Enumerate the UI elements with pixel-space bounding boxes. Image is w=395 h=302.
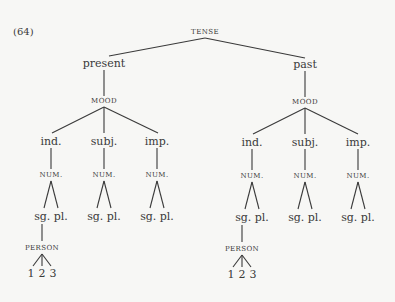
node-sg-pl: sg. pl. [288,212,322,223]
tree-edges [0,0,395,302]
node-subj: subj. [292,137,319,148]
node-sg-pl: sg. pl. [341,212,375,223]
node-mood: MOOD [292,99,318,106]
node-tense: TENSE [191,29,219,36]
node-past: past [293,59,317,70]
node-person-3: 3 [50,268,57,279]
node-person-2: 2 [39,268,46,279]
example-number: (64) [13,26,34,37]
node-mood: MOOD [91,98,117,105]
node-num: NUM. [293,173,316,180]
node-num: NUM. [145,172,168,179]
node-sg-pl: sg. pl. [140,211,174,222]
node-ind: ind. [40,136,61,147]
node-sg-pl: sg. pl. [87,211,121,222]
node-person-2: 2 [239,269,246,280]
node-person: PERSON [225,246,259,253]
node-present: present [83,58,125,69]
node-person-1: 1 [28,268,35,279]
node-person-3: 3 [250,269,257,280]
node-num: NUM. [240,173,263,180]
node-subj: subj. [91,136,118,147]
node-num: NUM. [39,172,62,179]
node-person-1: 1 [228,269,235,280]
node-num: NUM. [92,172,115,179]
node-imp: imp. [346,137,371,148]
node-imp: imp. [145,136,170,147]
node-person: PERSON [25,245,59,252]
node-sg-pl: sg. pl. [235,212,269,223]
node-num: NUM. [346,173,369,180]
node-sg-pl: sg. pl. [34,211,68,222]
tense-tree-diagram: (64) TENSE present MOOD ind. subj. imp. … [0,0,395,302]
node-ind: ind. [241,137,262,148]
